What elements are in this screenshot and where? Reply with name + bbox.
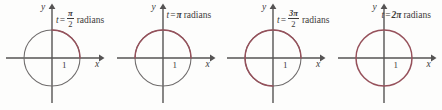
y-axis-label: y — [373, 3, 377, 13]
y-axis-arrowhead — [49, 4, 56, 10]
equation-units: radians — [75, 15, 104, 25]
y-axis-label: y — [41, 3, 45, 13]
diagram-panel-pi: y x 1 t=πradians — [111, 0, 222, 110]
y-axis-arrowhead — [159, 4, 166, 10]
equation-operator: = — [280, 15, 287, 25]
diagram-panel-3pi-over-2: y x 1 t=3π2radians — [221, 0, 332, 110]
x-axis-arrowhead — [210, 55, 216, 62]
equation-label: t=2πradians — [382, 11, 431, 21]
equation-units: radians — [401, 10, 430, 20]
y-axis-label: y — [152, 3, 156, 13]
x-axis-label: x — [95, 60, 99, 70]
highlighted-arc — [52, 30, 80, 58]
x-axis-arrowhead — [99, 55, 105, 62]
equation-operator: = — [169, 10, 176, 20]
x-axis-arrowhead — [431, 55, 437, 62]
radius-tick-label: 1 — [283, 61, 288, 70]
x-axis-label: x — [206, 60, 210, 70]
diagram-panel-pi-over-2: y x 1 t=π2radians — [0, 0, 111, 110]
fraction-numerator: 3π — [288, 9, 299, 19]
x-axis-arrowhead — [320, 55, 326, 62]
equation-label: t=3π2radians — [277, 9, 329, 28]
equation-fraction: 3π2 — [288, 9, 299, 28]
diagram-panel-2pi: y x 1 t=2πradians — [332, 0, 442, 110]
y-axis-arrowhead — [270, 4, 277, 10]
equation-units: radians — [182, 10, 211, 20]
radius-tick-label: 1 — [394, 61, 399, 70]
fraction-denominator: 2 — [67, 19, 74, 28]
x-axis-label: x — [316, 60, 320, 70]
equation-operator: = — [59, 15, 66, 25]
y-axis-arrowhead — [380, 4, 387, 10]
equation-fraction: π2 — [67, 9, 74, 28]
equation-units: radians — [300, 15, 329, 25]
fraction-denominator: 2 — [288, 19, 299, 28]
equation-label: t=π2radians — [56, 9, 104, 28]
equation-value: π — [177, 10, 182, 20]
unit-circle-figure-strip: y x 1 t=π2radians y x 1 t=πradians — [0, 0, 442, 110]
equation-label: t=πradians — [167, 11, 212, 21]
equation-operator: = — [384, 10, 391, 20]
radius-tick-label: 1 — [173, 61, 178, 70]
fraction-numerator: π — [67, 9, 74, 19]
radius-tick-label: 1 — [62, 61, 67, 70]
y-axis-label: y — [262, 3, 266, 13]
x-axis-label: x — [427, 60, 431, 70]
equation-value: 2π — [392, 10, 402, 20]
